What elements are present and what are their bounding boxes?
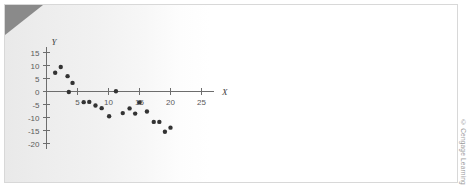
x-tick-label: 20 (166, 98, 175, 107)
ticks-layer: 510152025151050-5-10-15-20 (28, 49, 207, 149)
data-point (107, 114, 111, 118)
y-tick-label: -5 (32, 101, 40, 110)
data-point (93, 103, 97, 107)
y-tick-label: 15 (31, 49, 40, 58)
y-tick-label: 10 (31, 62, 40, 71)
data-point (70, 81, 74, 85)
data-point (59, 65, 63, 69)
data-point (114, 89, 118, 93)
axes-layer (43, 47, 214, 148)
data-point (82, 100, 86, 104)
scatter-plot-figure: 510152025151050-5-10-15-20 XY © Cengage … (0, 0, 469, 191)
x-tick-label: 5 (75, 98, 80, 107)
data-point (53, 71, 57, 75)
data-point (133, 111, 137, 115)
x-tick-label: 10 (104, 98, 113, 107)
x-tick-label: 25 (197, 98, 206, 107)
data-point (121, 111, 125, 115)
data-point (157, 120, 161, 124)
y-tick-label: -20 (28, 140, 40, 149)
data-point (152, 120, 156, 124)
data-point (168, 125, 172, 129)
data-point (145, 109, 149, 113)
data-point (127, 106, 131, 110)
x-axis-title: X (221, 87, 228, 97)
y-tick-label: 0 (35, 88, 40, 97)
y-tick-label: -10 (28, 114, 40, 123)
data-point (163, 130, 167, 134)
data-point (65, 74, 69, 78)
y-tick-label: 5 (35, 75, 40, 84)
data-point (87, 100, 91, 104)
data-point (137, 100, 141, 104)
y-tick-label: -15 (28, 127, 40, 136)
data-point (99, 106, 103, 110)
data-point (67, 90, 71, 94)
attribution-text: © Cengage Learning (460, 119, 467, 185)
axis-names-layer: XY (52, 37, 228, 96)
y-axis-title: Y (52, 37, 58, 47)
plot-svg: 510152025151050-5-10-15-20 XY (0, 0, 469, 191)
